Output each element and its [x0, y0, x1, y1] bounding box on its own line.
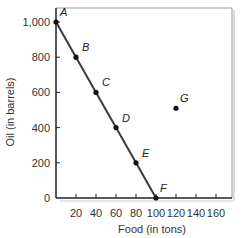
ppf-line — [56, 22, 156, 198]
ppf-chart: 2040608010012014016002004006008001,000 A… — [0, 0, 248, 238]
y-tick-label: 800 — [32, 51, 50, 63]
axes — [56, 8, 232, 198]
y-axis-title: Oil (in barrels) — [4, 77, 16, 146]
y-tick-label: 0 — [44, 192, 50, 204]
point-c — [93, 90, 98, 95]
y-tick-label: 200 — [32, 157, 50, 169]
x-tick-label: 160 — [207, 207, 225, 219]
x-tick-label: 140 — [187, 207, 205, 219]
point-label-b: B — [82, 41, 89, 53]
point-a — [53, 19, 58, 24]
x-tick-label: 40 — [90, 207, 102, 219]
x-axis-title: Food (in tons) — [118, 223, 186, 235]
plot-frame — [56, 8, 234, 201]
point-e — [133, 160, 138, 165]
point-label-a: A — [59, 6, 67, 18]
x-tick-label: 80 — [130, 207, 142, 219]
y-tick-label: 400 — [32, 122, 50, 134]
data-points: ABCDEFG — [53, 6, 189, 201]
point-label-c: C — [102, 76, 110, 88]
x-tick-label: 100 — [147, 207, 165, 219]
x-tick-label: 120 — [167, 207, 185, 219]
point-g — [173, 106, 178, 111]
point-label-d: D — [122, 112, 130, 124]
point-b — [73, 55, 78, 60]
point-label-e: E — [142, 147, 150, 159]
point-label-g: G — [180, 92, 189, 104]
point-label-f: F — [160, 182, 168, 194]
x-tick-label: 60 — [110, 207, 122, 219]
y-tick-label: 1,000 — [22, 16, 50, 28]
y-tick-label: 600 — [32, 86, 50, 98]
x-tick-label: 20 — [70, 207, 82, 219]
point-f — [153, 195, 158, 200]
point-d — [113, 125, 118, 130]
